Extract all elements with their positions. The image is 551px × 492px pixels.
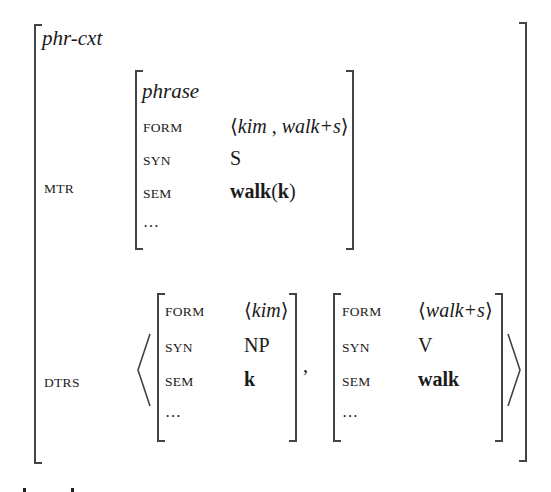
mtr-right-bracket (346, 70, 354, 250)
dtr2-sem-value: walk (418, 368, 459, 391)
form-word: walk+s (426, 299, 485, 321)
dtrs-label: DTRS (44, 375, 80, 391)
dtr2-syn-value: V (418, 334, 432, 357)
dtr2-left-bracket (333, 293, 341, 442)
dtr1-sem-value: k (244, 368, 255, 391)
right-angle-bracket: ⟩ (281, 299, 289, 321)
form-word-walks: walk+s (282, 115, 341, 137)
form-word: kim (252, 299, 281, 321)
dtr1-form-value: ⟨kim⟩ (244, 298, 289, 322)
dtr2-syn-label: SYN (342, 340, 370, 356)
sem-argument: k (278, 180, 289, 202)
mtr-syn-label: SYN (143, 153, 171, 169)
outer-left-bracket (34, 24, 42, 464)
left-angle-bracket: ⟨ (244, 299, 252, 321)
mtr-syn-value: S (230, 147, 241, 170)
dtr2-form-label: FORM (342, 304, 381, 320)
dtr2-right-bracket (495, 293, 503, 442)
mtr-sem-value: walk(k) (230, 180, 296, 203)
right-angle-bracket: ⟩ (341, 115, 349, 137)
cropped-text-fragment (23, 488, 26, 492)
mtr-sem-label: SEM (143, 186, 172, 202)
mtr-form-label: FORM (143, 120, 182, 136)
mtr-rest: … (143, 213, 161, 231)
cropped-text-fragment (71, 488, 74, 492)
list-comma: , (303, 354, 308, 377)
dtr2-form-value: ⟨walk+s⟩ (418, 298, 493, 322)
left-angle-bracket: ⟨ (230, 115, 238, 137)
dtr1-syn-value: NP (244, 334, 270, 357)
form-word-kim: kim (238, 115, 267, 137)
construct-type: phr-cxt (42, 26, 102, 51)
dtr1-syn-label: SYN (165, 340, 193, 356)
dtr1-rest: … (165, 403, 183, 421)
list-close-angle (506, 334, 522, 406)
mtr-label: MTR (44, 181, 74, 197)
open-paren: ( (271, 180, 278, 202)
dtr1-form-label: FORM (165, 304, 204, 320)
dtr2-rest: … (342, 403, 360, 421)
right-angle-bracket: ⟩ (485, 299, 493, 321)
list-separator: , (267, 115, 282, 137)
close-paren: ) (289, 180, 296, 202)
dtr1-left-bracket (157, 293, 165, 442)
dtr1-right-bracket (289, 293, 297, 442)
mtr-form-value: ⟨kim , walk+s⟩ (230, 114, 349, 138)
sem-predicate: walk (230, 180, 271, 202)
dtr2-sem-label: SEM (342, 374, 371, 390)
mtr-type: phrase (142, 79, 199, 104)
list-open-angle (136, 334, 152, 406)
dtr1-sem-label: SEM (165, 374, 194, 390)
left-angle-bracket: ⟨ (418, 299, 426, 321)
